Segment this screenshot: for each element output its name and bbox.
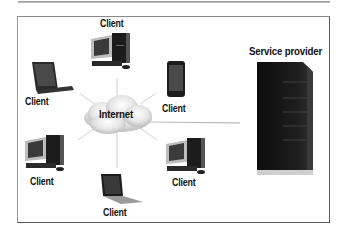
laptop-icon <box>99 172 145 208</box>
client-lower-right-desktop <box>163 136 209 176</box>
client-lower-left-desktop <box>22 133 68 173</box>
client-label-top: Client <box>100 18 123 29</box>
client-laptop <box>99 172 145 208</box>
server-tower-icon <box>255 60 317 178</box>
tablet-icon <box>26 60 76 94</box>
client-label-lower-right: Client <box>172 177 195 188</box>
client-label-laptop: Client <box>103 207 126 218</box>
client-tablet <box>26 60 76 94</box>
client-label-tablet: Client <box>25 96 48 107</box>
desktop-computer-icon <box>163 136 209 176</box>
desktop-computer-icon <box>22 133 68 173</box>
smartphone-icon <box>166 60 186 98</box>
client-smartphone <box>166 60 186 98</box>
client-label-lower-left: Client <box>30 176 53 187</box>
internet-label: Internet <box>99 108 133 120</box>
desktop-computer-icon <box>88 31 134 71</box>
service-provider-server <box>255 60 317 178</box>
client-label-smartphone: Client <box>162 103 185 114</box>
service-provider-label: Service provider <box>249 45 322 57</box>
client-top-desktop <box>88 31 134 71</box>
